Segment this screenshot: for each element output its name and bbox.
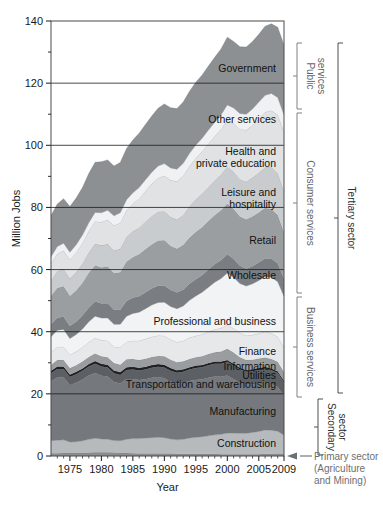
primary-sector-note-line3: and Mining): [314, 475, 366, 486]
bracket-label-public-services: services: [316, 58, 327, 95]
x-tick-label: 1990: [152, 463, 176, 475]
x-tick-label: 1995: [184, 463, 208, 475]
bracket-label-public-services: Public: [305, 62, 316, 89]
y-tick-label: 0: [37, 450, 43, 462]
x-tick-label: 1975: [58, 463, 82, 475]
series-label: Health and: [225, 145, 276, 157]
y-tick-label: 60: [31, 264, 43, 276]
primary-sector-note-line2: (Agriculture: [314, 463, 366, 474]
y-axis-title: Million Jobs: [10, 189, 22, 247]
bracket-label-secondary-sector: Secondary: [326, 403, 337, 451]
series-label: Finance: [239, 345, 277, 357]
stacked-area-chart: 020406080100120140 197519801985199019952…: [0, 0, 383, 506]
bracket-label-consumer-services: Consumer services: [305, 160, 316, 246]
series-label: Information: [223, 360, 276, 372]
y-tick-label: 120: [25, 77, 43, 89]
series-label: Construction: [217, 437, 276, 449]
y-tick-label: 140: [25, 15, 43, 27]
series-label: Professional and business: [153, 315, 276, 327]
x-tick-label: 1985: [121, 463, 145, 475]
figure-container: 020406080100120140 197519801985199019952…: [0, 0, 383, 506]
x-tick-label: 2009: [272, 463, 296, 475]
x-tick-label: 1980: [89, 463, 113, 475]
series-label: private education: [196, 157, 276, 169]
x-axis-title: Year: [156, 481, 179, 493]
primary-sector-note-line1: Primary sector: [314, 451, 379, 462]
y-tick-label: 40: [31, 326, 43, 338]
bracket-label-business-services: Business services: [305, 307, 316, 387]
series-label: hospitality: [229, 198, 276, 210]
x-tick-label: 2000: [215, 463, 239, 475]
y-tick-label: 20: [31, 388, 43, 400]
series-label: Retail: [249, 234, 276, 246]
bracket-label-tertiary-sector: Tertiary sector: [346, 187, 357, 250]
y-tick-label: 100: [25, 139, 43, 151]
x-tick-label: 2005: [247, 463, 271, 475]
bracket-label-secondary-sector: sector: [337, 413, 348, 441]
y-tick-label: 80: [31, 201, 43, 213]
series-label: Government: [218, 62, 276, 74]
series-label: Wholesale: [227, 269, 276, 281]
series-label: Leisure and: [221, 186, 276, 198]
series-label: Other services: [208, 113, 276, 125]
series-label: Manufacturing: [209, 405, 276, 417]
